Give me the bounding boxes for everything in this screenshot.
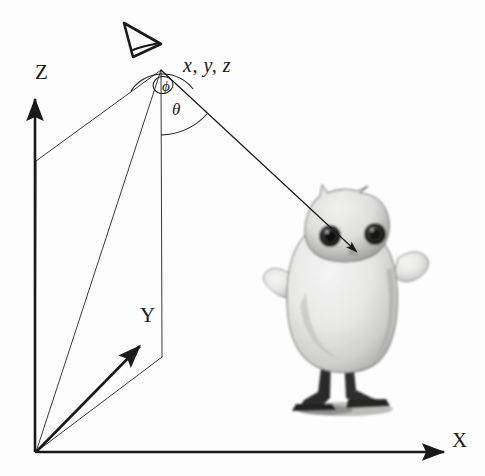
theta-arc (161, 114, 207, 135)
eye-icon (124, 23, 161, 57)
theta-angle-label: θ (172, 101, 180, 118)
owl-figurine (264, 185, 429, 416)
phi-angle-label: ϕ (162, 79, 170, 94)
zenith-reference-line (161, 70, 162, 357)
frustum-edge-upper-left (36, 70, 161, 161)
frustum-edge-to-origin (36, 70, 161, 452)
viewing-geometry-figure: Z Y X x, y, z ϕ θ (0, 0, 485, 476)
figure-canvas (0, 0, 485, 476)
line-of-sight (161, 70, 357, 252)
viewpoint-coordinates-label: x, y, z (183, 55, 231, 75)
z-axis-label: Z (35, 62, 48, 83)
construction-lines (35, 70, 162, 452)
y-axis-line (36, 346, 140, 452)
x-axis-label: X (452, 430, 467, 451)
frustum-edge-right-lower (36, 357, 162, 452)
y-axis-label: Y (140, 305, 155, 326)
